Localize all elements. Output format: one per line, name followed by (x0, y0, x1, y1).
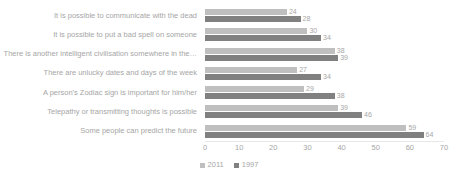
bar-group: 5964 (205, 122, 444, 141)
legend-label: 2011 (208, 160, 224, 170)
category-axis-labels: It is possible to communicate with the d… (0, 6, 201, 141)
bar-1997[interactable] (205, 132, 424, 138)
category-label: There are unlucky dates and days of the … (44, 68, 201, 78)
bar-value-label: 38 (335, 90, 345, 101)
bar-2011[interactable] (205, 125, 406, 131)
bar-group: 3034 (205, 25, 444, 44)
x-axis-tick: 70 (440, 143, 448, 153)
bar-track: 64 (205, 132, 444, 138)
bar-group: 3839 (205, 45, 444, 64)
legend-swatch-icon (200, 163, 205, 168)
category-label-row: There is another intelligent civilisatio… (0, 45, 201, 64)
bar-value-label: 28 (301, 13, 311, 24)
x-axis-tick: 10 (235, 143, 243, 153)
bar-group: 2734 (205, 64, 444, 83)
bar-track: 38 (205, 93, 444, 99)
bar-1997[interactable] (205, 93, 335, 99)
bar-value-label: 46 (362, 109, 372, 120)
bar-2011[interactable] (205, 67, 297, 73)
bar-1997[interactable] (205, 35, 321, 41)
legend-swatch-icon (234, 163, 239, 168)
category-label-row: There are unlucky dates and days of the … (0, 64, 201, 83)
bar-chart: It is possible to communicate with the d… (0, 0, 458, 179)
bar-value-label: 39 (338, 52, 348, 63)
bar-group: 2938 (205, 83, 444, 102)
bar-1997[interactable] (205, 55, 338, 61)
category-label: There is another intelligent civilisatio… (4, 49, 201, 59)
bar-2011[interactable] (205, 48, 335, 54)
x-axis-tick: 30 (303, 143, 311, 153)
legend-item-2011[interactable]: 2011 (200, 160, 224, 170)
x-axis-tick: 60 (406, 143, 414, 153)
category-label-row: It is possible to communicate with the d… (0, 6, 201, 25)
bar-value-label: 34 (321, 32, 331, 43)
bar-value-label: 64 (424, 129, 434, 140)
category-label: It is possible to communicate with the d… (54, 11, 201, 21)
bar-track: 46 (205, 112, 444, 118)
x-axis: 010203040506070 (205, 141, 444, 155)
category-label: It is possible to put a bad spell on som… (53, 30, 201, 40)
bar-track: 39 (205, 105, 444, 111)
bar-2011[interactable] (205, 86, 304, 92)
bar-track: 38 (205, 48, 444, 54)
bar-1997[interactable] (205, 16, 301, 22)
category-label: A person's Zodiac sign is important for … (43, 88, 201, 98)
category-label-row: Some people can predict the future (0, 122, 201, 141)
bar-value-label: 34 (321, 71, 331, 82)
bar-rows: 2428303438392734293839465964 (205, 6, 444, 141)
x-axis-tick: 40 (337, 143, 345, 153)
bar-2011[interactable] (205, 9, 287, 15)
bar-1997[interactable] (205, 74, 321, 80)
x-axis-tick: 20 (269, 143, 277, 153)
bar-group: 2428 (205, 6, 444, 25)
category-label-row: Telepathy or transmitting thoughts is po… (0, 102, 201, 121)
bar-track: 34 (205, 35, 444, 41)
x-axis-tick: 50 (372, 143, 380, 153)
bar-track: 34 (205, 74, 444, 80)
category-label: Telepathy or transmitting thoughts is po… (47, 107, 201, 117)
legend-item-1997[interactable]: 1997 (234, 160, 259, 170)
bar-group: 3946 (205, 102, 444, 121)
bar-track: 59 (205, 125, 444, 131)
plot-area: 2428303438392734293839465964 (205, 6, 444, 141)
bar-track: 24 (205, 9, 444, 15)
bar-2011[interactable] (205, 28, 307, 34)
category-label-row: It is possible to put a bad spell on som… (0, 25, 201, 44)
legend-label: 1997 (242, 160, 259, 170)
chart-legend: 2011 1997 (0, 160, 458, 170)
bar-track: 28 (205, 16, 444, 22)
bar-2011[interactable] (205, 105, 338, 111)
x-axis-tick: 0 (203, 143, 207, 153)
bar-1997[interactable] (205, 112, 362, 118)
category-label-row: A person's Zodiac sign is important for … (0, 83, 201, 102)
bar-track: 39 (205, 55, 444, 61)
bar-track: 29 (205, 86, 444, 92)
category-label: Some people can predict the future (80, 126, 201, 136)
